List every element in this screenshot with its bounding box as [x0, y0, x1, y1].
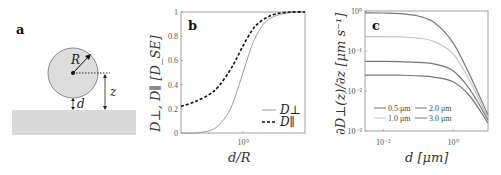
- figure: a R z d b 00.20.40.60.81 10⁰ D⊥ D∥ d/R D…: [0, 0, 501, 175]
- y-tick-label: 10⁻²: [348, 87, 363, 96]
- y-tick-label: 0.8: [168, 32, 178, 41]
- panel-b: b 00.20.40.60.81 10⁰ D⊥ D∥ d/R D⊥, D∥ [D…: [148, 8, 305, 165]
- y-tick-label: 0.2: [168, 105, 178, 114]
- panel-a: a R z d: [12, 22, 136, 135]
- panel-c: c 10⁰10⁻¹10⁻²10⁻³ 10⁻²10⁰ 0.5 μm1.0 μm2.…: [333, 7, 488, 165]
- y-tick-label: 10⁻³: [348, 127, 363, 136]
- y-tick-label: 1: [174, 8, 178, 17]
- panel-c-label: c: [372, 18, 380, 33]
- panel-b-xlabel: d/R: [228, 150, 251, 165]
- height-arrowhead-bottom-icon: [103, 106, 107, 110]
- curve-dpar: [181, 12, 305, 107]
- legend-label: 0.5 μm: [388, 104, 411, 113]
- panel-b-legend: D⊥ D∥: [262, 103, 301, 129]
- x-tick-label: 10⁰: [448, 138, 459, 147]
- panel-c-plot-frame: [365, 11, 488, 131]
- curve-1.0um: [365, 37, 488, 119]
- y-tick-label: 10⁰: [351, 7, 362, 16]
- panel-b-label: b: [188, 18, 197, 33]
- height-arrowhead-top-icon: [103, 74, 107, 78]
- panel-c-xlabel: d [μm]: [405, 150, 449, 165]
- panel-c-curves: [365, 13, 488, 123]
- panel-c-y-ticks: 10⁰10⁻¹10⁻²10⁻³: [348, 7, 367, 136]
- gap-arrowhead-bottom-icon: [71, 107, 75, 110]
- panel-b-ylabel: D⊥, D∥ [D_SE]: [148, 34, 163, 133]
- curve-3.0um: [365, 75, 488, 123]
- panel-c-x-ticks: 10⁻²10⁰: [376, 129, 459, 147]
- x-tick-label: 10⁰: [238, 138, 249, 147]
- y-tick-label: 10⁻¹: [348, 47, 363, 56]
- legend-label: 2.0 μm: [429, 104, 452, 113]
- gap-label: d: [77, 97, 85, 111]
- panel-c-legend: 0.5 μm1.0 μm2.0 μm3.0 μm: [374, 104, 452, 123]
- radius-label: R: [70, 53, 80, 67]
- y-tick-label: 0.6: [168, 56, 178, 65]
- x-tick-label: 10⁻²: [376, 138, 391, 147]
- curve-0.5um: [365, 13, 488, 115]
- panel-c-ylabel: ∂D⊥(z)/∂z [μm s⁻¹]: [333, 12, 348, 135]
- curve-2.0um: [365, 61, 488, 119]
- legend-label: 1.0 μm: [388, 114, 411, 123]
- panel-a-label: a: [16, 22, 25, 37]
- height-label: z: [109, 85, 117, 99]
- y-tick-label: 0: [174, 129, 178, 138]
- legend-label: 3.0 μm: [429, 114, 452, 123]
- legend-label-dpar: D∥: [279, 115, 295, 129]
- wall-surface: [12, 110, 136, 135]
- y-tick-label: 0.4: [168, 81, 178, 90]
